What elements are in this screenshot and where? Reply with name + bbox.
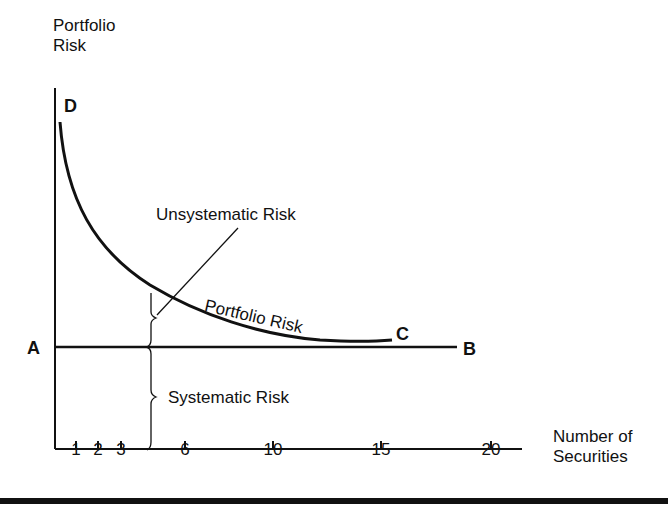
x-ticks — [76, 441, 491, 449]
x-axis-label-2: Securities — [553, 447, 628, 467]
systematic-risk-label: Systematic Risk — [168, 388, 289, 408]
bottom-rule — [0, 498, 668, 504]
x-tick-label: 15 — [372, 440, 391, 460]
unsystematic-brace — [146, 293, 156, 347]
systematic-brace — [146, 347, 156, 450]
x-tick-label: 3 — [116, 440, 125, 460]
x-tick-label: 1 — [71, 440, 80, 460]
y-axis-label-1: Portfolio — [53, 16, 115, 36]
x-axis-label-1: Number of — [553, 427, 632, 447]
unsystematic-risk-label: Unsystematic Risk — [156, 205, 296, 225]
point-d-label: D — [64, 96, 77, 116]
point-c-label: C — [396, 324, 409, 344]
point-b-label: B — [463, 339, 476, 359]
y-axis-label-2: Risk — [53, 36, 86, 56]
x-tick-label: 20 — [482, 440, 501, 460]
point-a-label: A — [27, 338, 40, 358]
x-tick-label: 2 — [93, 440, 102, 460]
x-tick-label: 10 — [264, 440, 283, 460]
x-tick-label: 6 — [180, 440, 189, 460]
